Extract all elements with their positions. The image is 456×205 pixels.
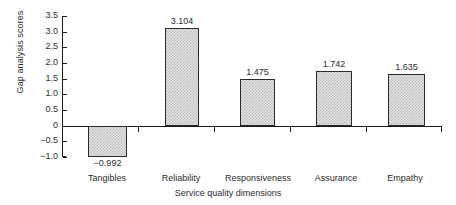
x-tick xyxy=(138,127,139,132)
y-axis-title: Gap analysis scores xyxy=(15,0,25,122)
bar-chart: Gap analysis scores 3.5 3.0 2.5 2.0 1.5 … xyxy=(0,0,456,205)
y-tick-label: 2.0 xyxy=(45,57,58,67)
y-tick-label: 0.5 xyxy=(45,104,58,114)
y-axis-line xyxy=(62,16,63,157)
y-tick-label: 2.5 xyxy=(45,41,58,51)
bar-value-assurance: 1.742 xyxy=(304,59,364,69)
y-tick-label: 3.0 xyxy=(45,26,58,36)
x-category-label-tangibles: Tangibles xyxy=(68,173,146,183)
bar-tangibles xyxy=(88,126,127,157)
x-category-label-empathy: Empathy xyxy=(366,173,444,183)
y-tick-label: −0.5 xyxy=(40,135,58,145)
y-tick-label: 1.0 xyxy=(45,88,58,98)
x-tick xyxy=(441,127,442,132)
y-tick-label: 1.5 xyxy=(45,73,58,83)
bar-value-responsiveness: 1.475 xyxy=(228,67,287,77)
x-category-label-responsiveness: Responsiveness xyxy=(213,173,303,183)
bar-responsiveness xyxy=(240,79,275,125)
plot-area: 3.5 3.0 2.5 2.0 1.5 1.0 0.5 0 xyxy=(62,16,442,157)
bar-value-reliability: 3.104 xyxy=(152,16,212,26)
x-tick xyxy=(214,127,215,132)
y-tick-label: 3.5 xyxy=(45,10,58,20)
x-tick xyxy=(290,127,291,132)
bar-value-tangibles: −0.992 xyxy=(78,158,137,168)
y-tick-label: 0 xyxy=(53,120,58,130)
bar-empathy xyxy=(388,74,425,125)
y-tick-label: −1.0 xyxy=(40,151,58,161)
bar-reliability xyxy=(165,28,199,125)
bar-value-empathy: 1.635 xyxy=(377,62,436,72)
x-category-label-assurance: Assurance xyxy=(297,173,375,183)
bar-assurance xyxy=(316,71,352,126)
x-tick xyxy=(62,127,63,132)
x-axis-title: Service quality dimensions xyxy=(0,188,456,198)
x-tick xyxy=(366,127,367,132)
x-category-label-reliability: Reliability xyxy=(142,173,220,183)
